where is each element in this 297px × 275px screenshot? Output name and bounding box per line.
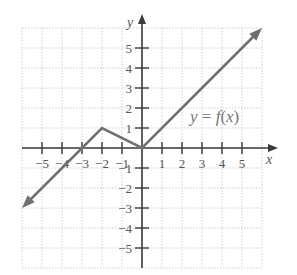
y-tick-label: −4 <box>118 221 132 236</box>
function-graph: −5−4−3−2−112345−5−4−3−2−112345 x y y = f… <box>0 0 297 275</box>
y-tick-label: −3 <box>118 201 132 216</box>
x-tick-label: 1 <box>159 156 166 171</box>
x-tick-label: 2 <box>179 156 186 171</box>
x-tick-label: 3 <box>199 156 206 171</box>
y-axis-arrow-icon <box>138 14 146 24</box>
y-tick-label: 4 <box>126 61 133 76</box>
x-tick-label: 5 <box>239 156 246 171</box>
x-axis-arrow-icon <box>268 144 278 152</box>
x-tick-label: −3 <box>75 156 89 171</box>
y-tick-label: 2 <box>126 101 133 116</box>
y-tick-label: −2 <box>118 181 132 196</box>
x-tick-label: 4 <box>219 156 226 171</box>
y-tick-label: 5 <box>126 41 133 56</box>
y-tick-label: −5 <box>118 241 132 256</box>
y-tick-label: −1 <box>118 161 132 176</box>
x-tick-label: −5 <box>35 156 49 171</box>
y-tick-label: 3 <box>126 81 133 96</box>
x-tick-label: −2 <box>95 156 109 171</box>
x-axis-label: x <box>265 152 273 167</box>
function-label: y = f(x) <box>188 107 239 126</box>
y-axis-label: y <box>125 15 134 30</box>
y-tick-label: 1 <box>126 121 133 136</box>
